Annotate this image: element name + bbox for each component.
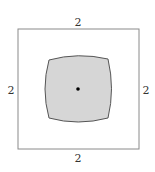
label-left: 2 bbox=[8, 84, 15, 97]
diagram-canvas: 2 2 2 2 bbox=[0, 0, 155, 172]
center-point bbox=[76, 87, 80, 91]
diagram-svg: 2 2 2 2 bbox=[0, 0, 155, 172]
label-bottom: 2 bbox=[75, 152, 82, 165]
label-top: 2 bbox=[75, 16, 82, 29]
label-right: 2 bbox=[143, 84, 150, 97]
